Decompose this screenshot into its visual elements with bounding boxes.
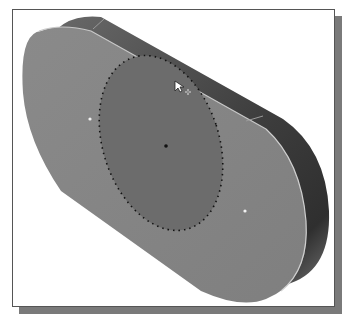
left-center-point[interactable]: [88, 117, 91, 120]
right-center-point[interactable]: [243, 209, 246, 212]
ellipse-center-point[interactable]: [164, 144, 168, 148]
model-viewport[interactable]: 3D model viewport: [12, 9, 335, 307]
model-canvas[interactable]: [12, 9, 335, 307]
